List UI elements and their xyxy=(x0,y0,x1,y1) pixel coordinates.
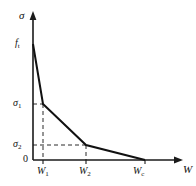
tick-label-w2-subscript: 2 xyxy=(87,170,91,178)
label-sigma2-subscript: 2 xyxy=(18,143,22,151)
origin-label: 0 xyxy=(23,154,28,164)
plot-canvas xyxy=(0,0,196,186)
softening-curve xyxy=(33,44,145,160)
tick-label-wc-subscript: c xyxy=(141,170,144,178)
y-axis-arrowhead xyxy=(30,11,37,20)
label-sigma1-subscript: 1 xyxy=(18,102,22,110)
x-axis-title: W xyxy=(183,164,192,175)
label-ft: ft xyxy=(15,38,20,48)
label-ft-subscript: t xyxy=(18,42,20,50)
y-axis-title: σ xyxy=(19,10,24,21)
tick-label-w2: W2 xyxy=(79,166,91,176)
x-axis-arrowhead xyxy=(174,157,183,164)
label-sigma1: σ1 xyxy=(13,98,21,108)
label-sigma2: σ2 xyxy=(13,139,21,149)
figure-container: σ W ft σ1 σ2 0 W1 W2 Wc xyxy=(0,0,196,186)
tick-label-w1: W1 xyxy=(37,166,49,176)
tick-label-wc: Wc xyxy=(133,166,144,176)
tick-label-w1-subscript: 1 xyxy=(45,170,49,178)
